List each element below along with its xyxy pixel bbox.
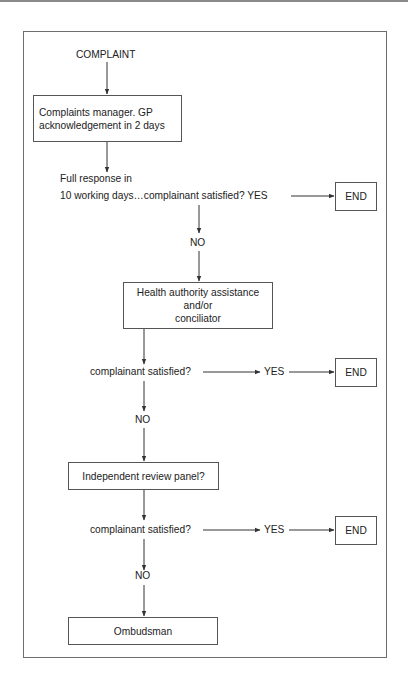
decision-3-label: complainant satisfied? — [90, 523, 191, 536]
yes-label-2: YES — [264, 365, 284, 378]
end-box-1: END — [335, 182, 377, 211]
end-text-2: END — [345, 366, 367, 379]
no-label-2: NO — [135, 413, 150, 426]
complaints-manager-box: Complaints manager. GP acknowledgement i… — [33, 95, 182, 142]
end-text-1: END — [345, 190, 367, 203]
no-label-3: NO — [135, 569, 150, 582]
no-label-1: NO — [190, 236, 205, 249]
health-authority-box: Health authority assistance and/or conci… — [123, 282, 273, 329]
complaints-manager-text: Complaints manager. GP acknowledgement i… — [39, 106, 165, 132]
ombudsman-box: Ombudsman — [68, 617, 218, 645]
decision-1-line2: 10 working days…complainant satisfied? Y… — [60, 189, 268, 202]
yes-label-3: YES — [264, 523, 284, 536]
start-label: COMPLAINT — [76, 48, 135, 61]
independent-review-box: Independent review panel? — [68, 462, 219, 490]
ombudsman-text: Ombudsman — [114, 625, 172, 638]
decision-2-label: complainant satisfied? — [90, 365, 191, 378]
end-box-2: END — [335, 358, 377, 387]
end-text-3: END — [345, 524, 367, 537]
health-authority-text: Health authority assistance and/or conci… — [137, 286, 259, 325]
end-box-3: END — [335, 516, 377, 545]
decision-1-line1: Full response in — [60, 172, 132, 185]
independent-review-text: Independent review panel? — [82, 470, 204, 483]
